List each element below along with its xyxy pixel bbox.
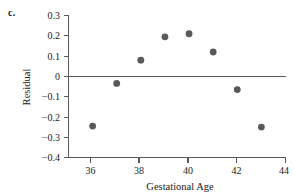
- data-point: [258, 124, 265, 131]
- y-tick-label: −0.4: [42, 152, 60, 163]
- x-axis: 36 38 40 42 44 Gestational Age: [69, 158, 290, 193]
- residual-scatter-chart: 0.3 0.2 0.1 0 −0.1 −0.2 −0.3 −0.4 Residu…: [0, 0, 294, 194]
- data-point: [162, 33, 169, 40]
- figure-root: c. 0.3 0.2 0.1 0 −0.1 −0.2 −0.3 −0.4 Res…: [0, 0, 294, 194]
- y-tick-label: −0.3: [42, 132, 60, 143]
- x-tick-label: 42: [232, 165, 242, 176]
- data-point: [113, 80, 120, 87]
- data-point-group: [89, 30, 265, 130]
- data-point: [186, 30, 193, 37]
- y-tick-label: 0.3: [48, 10, 61, 21]
- x-tick-label: 40: [183, 165, 193, 176]
- data-point: [210, 49, 217, 56]
- x-tick-label: 38: [134, 165, 144, 176]
- y-axis: 0.3 0.2 0.1 0 −0.1 −0.2 −0.3 −0.4 Residu…: [21, 10, 69, 163]
- y-tick-label: −0.2: [42, 112, 60, 123]
- data-point: [234, 86, 241, 93]
- y-tick-label: 0.2: [48, 30, 61, 41]
- y-tick-label: −0.1: [42, 91, 60, 102]
- y-tick-label: 0.1: [48, 51, 61, 62]
- x-tick-label: 36: [86, 165, 96, 176]
- y-tick-label: 0: [55, 71, 60, 82]
- data-point: [137, 57, 144, 64]
- data-point: [89, 123, 96, 130]
- y-axis-title: Residual: [21, 69, 32, 106]
- x-tick-label: 44: [279, 165, 289, 176]
- x-axis-title: Gestational Age: [146, 181, 214, 192]
